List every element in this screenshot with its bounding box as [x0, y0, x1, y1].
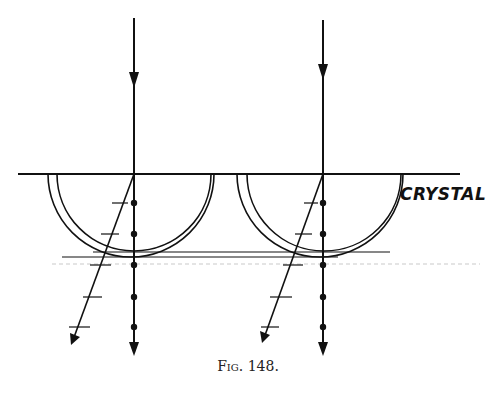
left-extraordinary-wavelet [48, 174, 214, 257]
right-bottom-arrowhead [318, 342, 328, 356]
right-polarization-ticks [261, 203, 318, 327]
arrowheads [70, 64, 328, 356]
right-oblique-arrowhead [260, 331, 270, 343]
right-top-arrowhead [318, 64, 328, 80]
right-extraordinary-wavelet [237, 174, 403, 257]
crystal-label: CRYSTAL [400, 184, 486, 204]
left-top-arrowhead [129, 72, 139, 88]
figure-caption: Fig. 148. [0, 358, 496, 374]
left-bottom-arrowhead [129, 342, 139, 356]
left-polarization-ticks [69, 203, 128, 327]
